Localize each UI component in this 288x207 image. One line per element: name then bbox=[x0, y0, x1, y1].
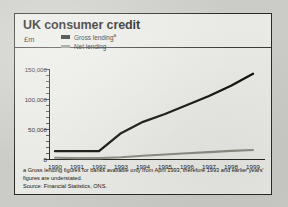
screenshot-page: UK consumer credit £m 050,000100,000150,… bbox=[0, 0, 288, 207]
gross-lending-line bbox=[55, 74, 253, 151]
axis-units-label: £m bbox=[24, 35, 34, 44]
legend-text-gross: Gross lending bbox=[74, 34, 113, 41]
legend-swatch-gross-icon bbox=[61, 35, 70, 38]
y-axis-tick-major bbox=[44, 69, 49, 70]
y-axis-tick-minor bbox=[46, 75, 49, 76]
y-axis-tick-minor bbox=[46, 111, 49, 112]
y-axis-tick-major bbox=[44, 99, 49, 100]
y-axis-tick-minor bbox=[46, 123, 49, 124]
y-axis-labels: 050,000100,000150,000 bbox=[15, 47, 47, 165]
y-axis-tick-major bbox=[44, 129, 49, 130]
footnote-a-text: a Gross lending figures for banks availa… bbox=[23, 167, 264, 181]
page-title: UK consumer credit bbox=[23, 18, 140, 32]
legend-label-gross-lending: Gross lendinga bbox=[74, 33, 116, 41]
y-axis-tick-major bbox=[44, 159, 49, 160]
line-chart-svg bbox=[49, 47, 265, 165]
legend-label-net-lending: Net lending bbox=[74, 43, 106, 50]
legend-footnote-marker: a bbox=[113, 33, 116, 38]
legend-item-gross-lending: Gross lendinga bbox=[61, 33, 116, 41]
y-axis-tick-minor bbox=[46, 135, 49, 136]
y-axis-tick-minor bbox=[46, 105, 49, 106]
source-text: Source: Financial Statistics, ONS. bbox=[23, 182, 265, 190]
legend-item-net-lending: Net lending bbox=[61, 43, 116, 50]
chart-figure: UK consumer credit £m 050,000100,000150,… bbox=[14, 13, 272, 195]
y-axis-tick-minor bbox=[46, 87, 49, 88]
chart-legend: Gross lendinga Net lending bbox=[61, 33, 116, 52]
y-axis-tick-minor bbox=[46, 81, 49, 82]
y-axis-tick-minor bbox=[46, 117, 49, 118]
y-axis-tick-minor bbox=[46, 147, 49, 148]
y-axis-tick-minor bbox=[46, 153, 49, 154]
series-canvas bbox=[49, 47, 265, 165]
plot-area: 050,000100,000150,000 199019911992199319… bbox=[15, 47, 273, 165]
y-axis-tick-minor bbox=[46, 141, 49, 142]
y-axis-tick-minor bbox=[46, 93, 49, 94]
footnote-block: a Gross lending figures for banks availa… bbox=[23, 166, 265, 190]
legend-swatch-net-icon bbox=[61, 45, 70, 47]
